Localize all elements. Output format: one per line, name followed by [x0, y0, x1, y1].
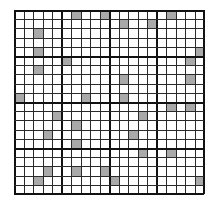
- shaded-cell: [43, 166, 53, 175]
- shaded-cell: [33, 28, 43, 37]
- shaded-cell: [33, 65, 43, 74]
- grid-horizontal-line: [14, 102, 204, 104]
- grid-horizontal-line: [14, 111, 204, 112]
- shaded-cell: [119, 74, 129, 83]
- shaded-cell: [71, 120, 81, 129]
- grid-horizontal-line: [14, 193, 204, 195]
- grid-horizontal-line: [14, 10, 204, 12]
- grid-horizontal-line: [14, 139, 204, 140]
- grid-board: [14, 10, 204, 194]
- grid-horizontal-line: [14, 185, 204, 186]
- shaded-cell: [138, 111, 148, 120]
- grid-horizontal-line: [14, 47, 204, 48]
- shaded-cell: [71, 166, 81, 175]
- grid-horizontal-line: [14, 38, 204, 39]
- grid-horizontal-line: [14, 157, 204, 158]
- shaded-cell: [33, 176, 43, 185]
- shaded-cell: [119, 19, 129, 28]
- grid-horizontal-line: [14, 84, 204, 85]
- grid-horizontal-line: [14, 28, 204, 29]
- grid-horizontal-line: [14, 148, 204, 150]
- grid-horizontal-line: [14, 176, 204, 177]
- grid-horizontal-line: [14, 19, 204, 20]
- grid-horizontal-line: [14, 56, 204, 58]
- grid-horizontal-line: [14, 65, 204, 66]
- grid-horizontal-line: [14, 93, 204, 94]
- shaded-cell: [185, 74, 195, 83]
- grid-horizontal-line: [14, 74, 204, 75]
- grid-horizontal-line: [14, 120, 204, 121]
- grid-horizontal-line: [14, 166, 204, 167]
- shaded-cell: [128, 130, 138, 139]
- grid-horizontal-line: [14, 130, 204, 131]
- shaded-cell: [43, 130, 53, 139]
